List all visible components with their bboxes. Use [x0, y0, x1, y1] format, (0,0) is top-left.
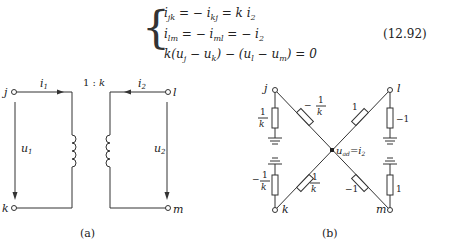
svg-text:u2: u2: [154, 142, 166, 156]
svg-text:1 : k: 1 : k: [83, 77, 105, 88]
node-k-b: k: [282, 203, 289, 216]
svg-text:−1: −1: [396, 114, 409, 124]
svg-text:i1: i1: [40, 77, 48, 91]
node-l-a: l: [173, 86, 177, 99]
svg-text:1: 1: [396, 184, 402, 194]
svg-text:uad=i2: uad=i2: [336, 145, 365, 157]
svg-text:k: k: [311, 184, 316, 194]
caption-b: (b): [322, 227, 338, 240]
node-j-b: j: [261, 82, 268, 95]
node-k-a: k: [2, 202, 9, 215]
svg-text:1: 1: [312, 172, 318, 182]
center-node: [330, 148, 334, 152]
svg-text:−: −: [252, 174, 260, 184]
svg-text:−: −: [304, 100, 312, 110]
svg-text:k: k: [261, 182, 266, 192]
svg-text:k: k: [259, 119, 264, 129]
circuit-diagrams: j k l m i1 i2 1 : k u1 u2 (a): [0, 0, 458, 245]
svg-text:u1: u1: [21, 142, 33, 156]
svg-text:1: 1: [262, 170, 268, 180]
node-m-a: m: [173, 203, 183, 216]
node-m-b: m: [376, 203, 386, 216]
node-j-a: j: [1, 86, 8, 99]
node-l-b: l: [397, 82, 401, 95]
svg-text:−1: −1: [345, 184, 358, 194]
svg-text:1: 1: [318, 95, 324, 105]
svg-text:k: k: [317, 107, 322, 117]
svg-text:1: 1: [260, 107, 266, 117]
svg-text:1: 1: [352, 102, 358, 112]
svg-text:i2: i2: [138, 77, 147, 91]
caption-a: (a): [80, 227, 95, 240]
